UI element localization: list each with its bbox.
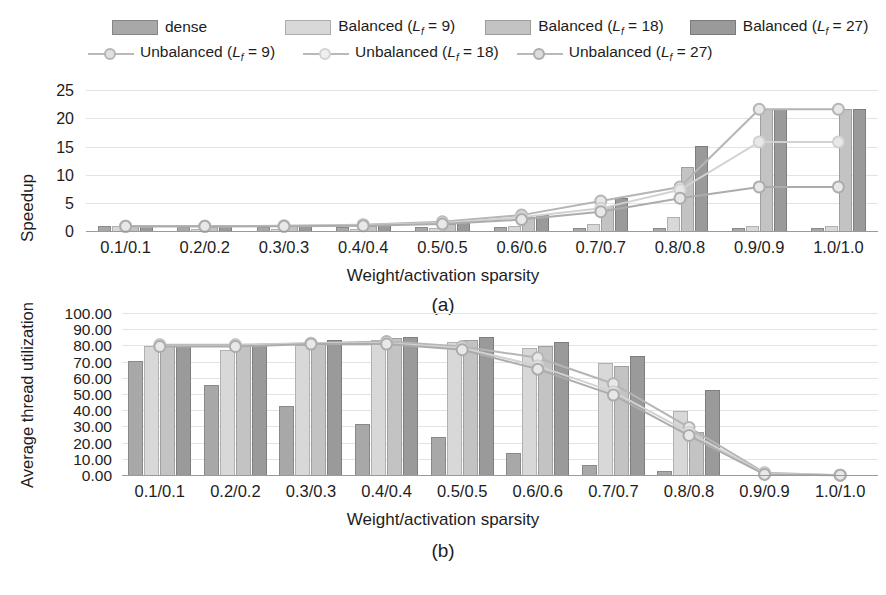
legend-item-unbalanced-27: Unbalanced (Lf = 27)	[517, 43, 713, 63]
bar[interactable]	[311, 343, 326, 476]
x-tick-label: 0.7/0.7	[561, 238, 640, 257]
bar-group[interactable]	[799, 80, 878, 232]
bar[interactable]	[598, 363, 613, 476]
legend-linemarker-unbalanced-27	[517, 47, 563, 60]
bar[interactable]	[387, 338, 402, 476]
bar-set	[244, 80, 323, 232]
bar[interactable]	[614, 366, 629, 476]
bar[interactable]	[538, 346, 553, 476]
bar-group[interactable]	[727, 306, 803, 476]
bar[interactable]	[128, 361, 143, 476]
bar-group[interactable]	[324, 80, 403, 232]
x-axis-line-a	[86, 231, 878, 233]
x-axis-label-b: Weight/activation sparsity	[0, 510, 886, 530]
x-tick-label: 0.9/0.9	[727, 482, 803, 501]
bar-group[interactable]	[403, 80, 482, 232]
bar[interactable]	[695, 146, 708, 232]
bar-set	[349, 306, 425, 476]
bar[interactable]	[204, 385, 219, 476]
y-tick-label: 25	[56, 83, 74, 99]
x-tick-label: 0.1/0.1	[86, 238, 165, 257]
x-tick-label: 0.6/0.6	[500, 482, 576, 501]
bar[interactable]	[689, 432, 704, 476]
x-tick-label: 0.4/0.4	[324, 238, 403, 257]
bar[interactable]	[144, 346, 159, 476]
bar-group[interactable]	[273, 306, 349, 476]
x-tick-label: 1.0/1.0	[799, 238, 878, 257]
bar-group[interactable]	[720, 80, 799, 232]
bar-group[interactable]	[802, 306, 878, 476]
bar[interactable]	[554, 342, 569, 476]
bar-group[interactable]	[576, 306, 652, 476]
bar-group[interactable]	[244, 80, 323, 232]
bar-group[interactable]	[349, 306, 425, 476]
bar-group[interactable]	[198, 306, 274, 476]
bar[interactable]	[673, 411, 688, 476]
bar[interactable]	[463, 340, 478, 476]
bar[interactable]	[760, 109, 773, 232]
y-tick-label: 90.00	[73, 323, 112, 339]
bar-groups-a	[86, 80, 878, 232]
x-tick-label: 0.2/0.2	[198, 482, 274, 501]
bar-set	[324, 80, 403, 232]
x-tick-label: 0.8/0.8	[640, 238, 719, 257]
bar[interactable]	[431, 437, 446, 476]
legend-swatch-balanced-9	[285, 20, 331, 35]
bar-group[interactable]	[86, 80, 165, 232]
legend-item-balanced-18: Balanced (Lf = 18)	[485, 17, 664, 37]
bar[interactable]	[236, 346, 251, 476]
bar[interactable]	[371, 340, 386, 476]
legend-label-balanced-9: Balanced (Lf = 9)	[338, 17, 455, 37]
y-tick-label: 5	[65, 196, 74, 212]
bar-set	[165, 80, 244, 232]
x-tick-label: 0.5/0.5	[424, 482, 500, 501]
x-tick-label: 0.5/0.5	[403, 238, 482, 257]
bar-group[interactable]	[122, 306, 198, 476]
bar[interactable]	[774, 109, 787, 232]
y-tick-label: 30.00	[73, 420, 112, 436]
y-axis-ticks-a: 0510152025	[0, 72, 74, 287]
bar[interactable]	[853, 109, 866, 232]
bar[interactable]	[160, 345, 175, 476]
bar[interactable]	[355, 424, 370, 476]
bar[interactable]	[536, 215, 549, 232]
bar-set	[727, 306, 803, 476]
y-tick-label: 15	[56, 140, 74, 156]
legend-linemarker-unbalanced-9	[88, 47, 134, 60]
bar[interactable]	[705, 390, 720, 476]
bar[interactable]	[327, 340, 342, 476]
bar[interactable]	[447, 342, 462, 476]
panel-caption-b: (b)	[0, 540, 886, 562]
bar[interactable]	[479, 337, 494, 476]
bar-set	[122, 306, 198, 476]
bar-group[interactable]	[640, 80, 719, 232]
bar-set	[198, 306, 274, 476]
bar[interactable]	[279, 406, 294, 476]
bar[interactable]	[506, 453, 521, 476]
bar[interactable]	[252, 345, 267, 476]
bar-set	[651, 306, 727, 476]
bar[interactable]	[403, 337, 418, 476]
bar-group[interactable]	[482, 80, 561, 232]
legend-label-dense: dense	[165, 18, 207, 36]
bar[interactable]	[681, 167, 694, 232]
bar[interactable]	[522, 348, 537, 476]
y-tick-label: 0	[65, 224, 74, 240]
y-tick-label: 50.00	[73, 387, 112, 403]
legend-item-balanced-27: Balanced (Lf = 27)	[690, 17, 869, 37]
bar-group[interactable]	[500, 306, 576, 476]
bar-group[interactable]	[424, 306, 500, 476]
bar-group[interactable]	[165, 80, 244, 232]
bar[interactable]	[630, 356, 645, 476]
bar[interactable]	[601, 206, 614, 232]
bar[interactable]	[220, 350, 235, 476]
bar[interactable]	[176, 345, 191, 476]
bar[interactable]	[295, 345, 310, 476]
plot-area-b	[122, 306, 878, 476]
bar-group[interactable]	[651, 306, 727, 476]
bar[interactable]	[839, 109, 852, 232]
bar[interactable]	[615, 198, 628, 232]
bar-group[interactable]	[561, 80, 640, 232]
legend-swatch-balanced-27	[690, 20, 736, 35]
legend-item-unbalanced-9: Unbalanced (Lf = 9)	[88, 43, 275, 63]
